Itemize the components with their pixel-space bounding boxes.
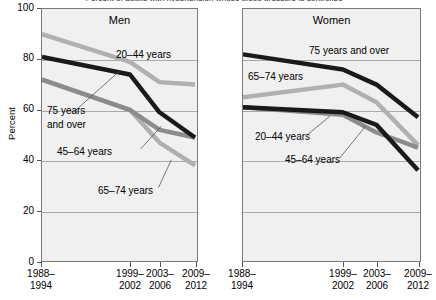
women-x-label-1: 1988– 1994 <box>224 268 260 291</box>
men-x-label-1: 1988– 1994 <box>23 268 59 291</box>
men-leader-45-64 <box>141 126 162 149</box>
women-x-tick-mark-3 <box>377 262 378 267</box>
men-x-tick-mark-3 <box>160 262 161 267</box>
men-label-45-64: 45–64 years <box>57 146 112 158</box>
women-label-65-74: 65–74 years <box>248 71 303 83</box>
panel-women: Women 75 years and over 65–74 years 20–4… <box>242 8 421 262</box>
women-x-tick-mark-2 <box>343 262 344 267</box>
men-series-plot <box>42 9 197 261</box>
women-leader-20-44 <box>308 116 330 134</box>
men-x-label-4: 2009– 2012 <box>178 268 214 291</box>
women-label-75-plus: 75 years and over <box>309 45 389 57</box>
women-leader-45-64 <box>340 126 366 158</box>
y-axis-title: Percent <box>6 94 17 154</box>
women-x-label-4: 2009– 2012 <box>400 268 436 291</box>
women-x-label-3: 2003– 2006 <box>359 268 395 291</box>
y-tick-60: 60 <box>4 104 34 114</box>
men-x-tick-mark-4 <box>196 262 197 267</box>
y-tick-80: 80 <box>4 53 34 63</box>
y-tick-0: 0 <box>4 257 34 267</box>
women-label-45-64: 45–64 years <box>285 154 340 166</box>
men-x-tick-mark-1 <box>41 262 42 267</box>
men-leader-65-74 <box>158 160 171 188</box>
y-tick-20: 20 <box>4 206 34 216</box>
men-label-65-74: 65–74 years <box>98 185 153 197</box>
y-tick-40: 40 <box>4 155 34 165</box>
women-x-label-2: 1999– 2002 <box>325 268 361 291</box>
men-label-75-plus-line2: and over <box>47 119 86 131</box>
women-label-20-44: 20–44 years <box>255 131 310 143</box>
men-x-tick-mark-2 <box>130 262 131 267</box>
women-x-tick-mark-4 <box>419 262 420 267</box>
men-label-20-44: 20–44 years <box>116 49 171 61</box>
men-x-label-3: 2003– 2006 <box>142 268 178 291</box>
women-x-tick-mark-1 <box>242 262 243 267</box>
panel-men: Men 20–44 years 75 years and over 45–64 … <box>41 8 198 262</box>
men-label-75-plus-line1: 75 years <box>47 105 85 117</box>
figure-header-clipped: Percent of adults with hypertension whos… <box>0 0 428 1</box>
y-tick-100: 100 <box>4 3 34 13</box>
